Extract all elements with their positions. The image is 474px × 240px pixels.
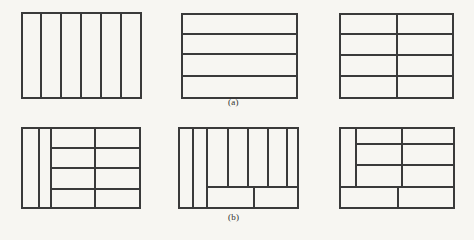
diagram-a1 [22, 13, 141, 98]
row-a [22, 13, 453, 98]
row-b [22, 128, 454, 208]
diagram-a2-outer-border [182, 14, 297, 98]
diagram-b2-outer-border [179, 128, 298, 208]
diagram-b3-outer-border [340, 128, 454, 208]
diagram-b3 [340, 128, 454, 208]
partition-diagram-canvas [0, 0, 474, 240]
caption-a: (a) [228, 97, 239, 107]
diagram-b2 [179, 128, 298, 208]
figure-panel: (a) (b) [0, 0, 474, 240]
diagram-b1 [22, 128, 140, 208]
caption-b: (b) [228, 212, 239, 222]
diagram-a2 [182, 14, 297, 98]
diagram-a3 [340, 14, 453, 98]
diagram-groups [22, 13, 454, 208]
